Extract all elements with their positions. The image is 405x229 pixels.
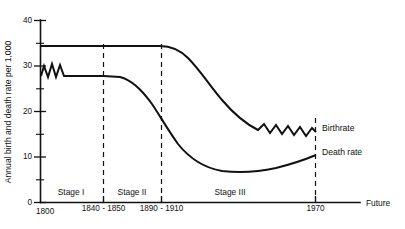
x-tick-label-1890-1910: 1890 - 1910 <box>140 204 184 213</box>
deathrate-curve <box>41 64 316 172</box>
x-tick-label-1970: 1970 <box>306 204 325 213</box>
birthrate-curve <box>41 46 316 136</box>
stage-label-1: Stage I <box>58 187 85 197</box>
y-tick-label-20: 20 <box>23 107 33 116</box>
x-tick-label-1800: 1800 <box>36 207 55 216</box>
y-axis-title: Annual birth and death rate per 1,000 <box>3 41 13 184</box>
y-tick-label-10: 10 <box>23 152 33 161</box>
series-label-death-rate: Death rate <box>322 147 362 157</box>
y-tick-label-30: 30 <box>23 61 33 70</box>
x-tick-label-1840-1850: 1840 - 1850 <box>82 204 126 213</box>
series-labels: Birthrate Death rate <box>322 123 362 157</box>
x-axis-future-label: Future <box>366 198 391 208</box>
chart-container: 0 10 20 30 40 Annual birth and death rat… <box>0 0 405 229</box>
axes-group <box>41 20 361 203</box>
y-tick-label-40: 40 <box>23 16 33 25</box>
series-label-birthrate: Birthrate <box>322 123 355 133</box>
y-axis-tick-labels: 0 10 20 30 40 <box>23 16 33 207</box>
x-axis-tick-labels: 1800 1840 - 1850 1890 - 1910 1970 Future <box>36 198 391 216</box>
stage-labels: Stage I Stage II Stage III <box>58 187 246 197</box>
y-tick-label-0: 0 <box>27 198 32 207</box>
stage-label-2: Stage II <box>118 187 147 197</box>
stage-dividers <box>104 44 316 196</box>
demographic-transition-chart: 0 10 20 30 40 Annual birth and death rat… <box>0 0 405 229</box>
stage-label-3: Stage III <box>214 187 245 197</box>
